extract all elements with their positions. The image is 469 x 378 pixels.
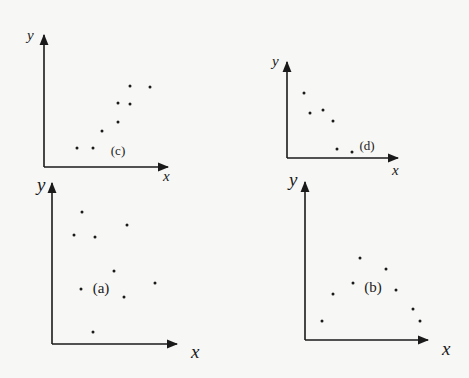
data-point — [92, 147, 95, 150]
data-point — [117, 121, 120, 124]
data-point — [73, 234, 76, 237]
y-axis-label: y — [35, 174, 46, 195]
data-point — [395, 289, 398, 292]
data-point — [117, 102, 120, 105]
data-point — [80, 288, 83, 291]
x-axis-label: x — [441, 338, 451, 359]
data-point — [332, 293, 335, 296]
panel-label: (b) — [364, 279, 382, 296]
x-axis-label: x — [190, 341, 200, 362]
data-point — [352, 282, 355, 285]
data-point — [94, 236, 97, 239]
scatter-panel-d: xy(d) — [270, 53, 399, 178]
data-point — [154, 282, 157, 285]
data-point — [309, 112, 312, 115]
data-point — [76, 147, 79, 150]
scatter-panel-b: xy(b) — [287, 169, 451, 359]
panel-label: (d) — [359, 138, 374, 153]
panel-label: (a) — [93, 280, 110, 297]
panel-label: (c) — [111, 143, 125, 158]
data-point — [336, 148, 339, 151]
data-point — [113, 270, 116, 273]
scatter-panel-a: xy(a) — [35, 174, 200, 362]
data-point — [126, 224, 129, 227]
scatter-panel-c: xy(c) — [25, 27, 170, 184]
y-axis-label: y — [25, 27, 34, 43]
y-axis-label: y — [270, 53, 279, 69]
data-point — [92, 331, 95, 334]
data-point — [123, 296, 126, 299]
y-axis-label: y — [287, 169, 298, 190]
data-point — [129, 103, 132, 106]
data-point — [419, 320, 422, 323]
data-point — [332, 120, 335, 123]
data-point — [322, 109, 325, 112]
data-point — [359, 257, 362, 260]
data-point — [412, 308, 415, 311]
data-point — [351, 151, 354, 154]
data-point — [81, 211, 84, 214]
x-axis-label: x — [391, 162, 399, 178]
scatter-figure: xy(c)xy(d)xy(a)xy(b) — [0, 0, 469, 378]
data-point — [321, 320, 324, 323]
data-point — [129, 85, 132, 88]
data-point — [385, 268, 388, 271]
x-axis-label: x — [162, 168, 170, 184]
data-point — [149, 86, 152, 89]
data-point — [101, 130, 104, 133]
data-point — [303, 92, 306, 95]
